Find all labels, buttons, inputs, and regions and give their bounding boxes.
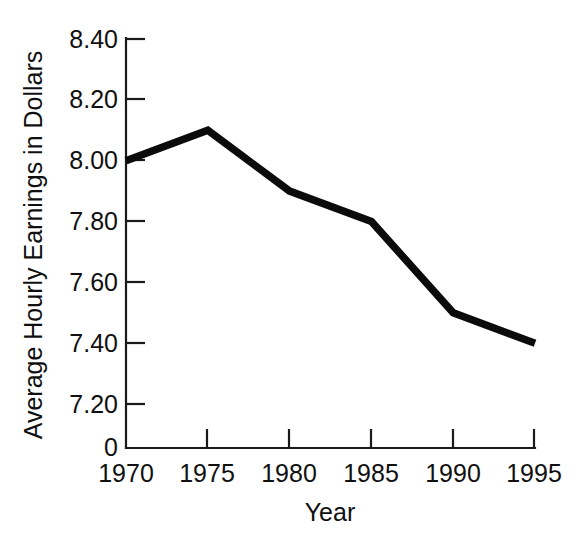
y-axis-origin-label: 0 [104, 433, 118, 461]
y-tick-label-7-60: 7.60 [69, 268, 118, 296]
y-tick-label-8-20: 8.20 [69, 85, 118, 113]
line-chart: 8.40 8.20 8.00 7.80 7.60 7.40 7.20 0 197… [0, 0, 580, 547]
y-tick-label-7-80: 7.80 [69, 207, 118, 235]
y-tick-label-8-40: 8.40 [69, 25, 118, 53]
x-tick-label-1975: 1975 [179, 459, 235, 487]
x-tick-label-1970: 1970 [98, 459, 154, 487]
x-tick-label-1995: 1995 [506, 459, 562, 487]
x-tick-label-1980: 1980 [261, 459, 317, 487]
x-tick-label-1985: 1985 [343, 459, 399, 487]
y-tick-label-7-20: 7.20 [69, 390, 118, 418]
x-tick-label-1990: 1990 [425, 459, 481, 487]
y-tick-label-7-40: 7.40 [69, 329, 118, 357]
y-tick-label-8-00: 8.00 [69, 146, 118, 174]
chart-container: 8.40 8.20 8.00 7.80 7.60 7.40 7.20 0 197… [0, 0, 580, 547]
x-axis-title: Year [305, 498, 356, 526]
y-axis-title: Average Hourly Earnings in Dollars [19, 51, 47, 440]
